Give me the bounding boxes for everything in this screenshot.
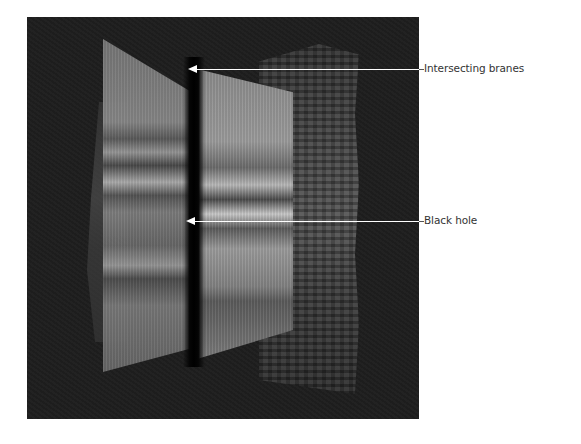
black-hole-arrow-icon — [186, 217, 195, 225]
intersecting-branes-leader-line — [197, 69, 421, 70]
brane-visualization-panel — [27, 17, 419, 419]
black-hole-band — [183, 57, 205, 367]
intersecting-branes-label: Intersecting branes — [424, 62, 524, 74]
black-hole-leader-line — [195, 221, 421, 222]
intersecting-branes-arrow-icon — [188, 65, 197, 73]
black-hole-label: Black hole — [424, 214, 477, 226]
right-brane-sheet — [197, 69, 293, 359]
